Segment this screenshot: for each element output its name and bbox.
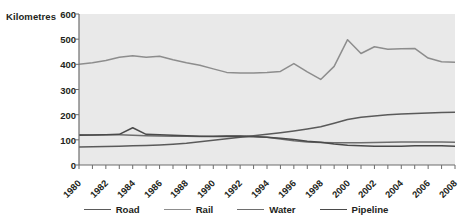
legend-line-swatch (320, 209, 347, 210)
y-axis-title: Kilometres (6, 11, 56, 22)
legend-label: Rail (196, 204, 214, 215)
chart-legend: RoadRailWaterPipeline (0, 199, 472, 219)
x-axis-tick-label: 1986 (142, 178, 164, 200)
legend-line-swatch (84, 209, 111, 210)
x-axis-tick-label: 2008 (437, 178, 459, 200)
series-line-rail (79, 40, 455, 80)
legend-label: Road (116, 204, 140, 215)
legend-label: Pipeline (352, 204, 389, 215)
legend-label: Water (269, 204, 295, 215)
legend-item-rail[interactable]: Rail (164, 204, 214, 215)
y-axis-tick-label: 500 (52, 34, 76, 45)
series-lines (79, 14, 455, 165)
x-axis-tick-label: 1980 (61, 178, 83, 200)
x-axis-tick-label: 2004 (384, 178, 406, 200)
y-axis-tick-label: 100 (52, 134, 76, 145)
x-axis-tick-label: 1984 (115, 178, 137, 200)
y-axis-tick-label: 300 (52, 84, 76, 95)
x-axis-tick-label: 2002 (357, 178, 379, 200)
x-axis-tick-label: 1990 (196, 178, 218, 200)
plot-area (79, 14, 455, 165)
legend-item-water[interactable]: Water (237, 204, 295, 215)
x-axis-tick-label: 1982 (88, 178, 110, 200)
x-axis-tick-label: 1994 (249, 178, 271, 200)
x-axis-tick-label: 2000 (330, 178, 352, 200)
x-axis-tick-label: 2006 (410, 178, 432, 200)
legend-item-pipeline[interactable]: Pipeline (320, 204, 389, 215)
x-axis-tick-label: 1996 (276, 178, 298, 200)
x-axis-tick-label: 1992 (222, 178, 244, 200)
x-axis-tick-label: 1988 (169, 178, 191, 200)
legend-line-swatch (164, 209, 191, 210)
series-line-pipeline (79, 128, 455, 146)
y-axis-tick-label: 200 (52, 109, 76, 120)
y-axis-tick-label: 600 (52, 9, 76, 20)
series-line-water (79, 135, 455, 143)
legend-line-swatch (237, 209, 264, 210)
legend-item-road[interactable]: Road (84, 204, 140, 215)
y-axis-tick-label: 400 (52, 59, 76, 70)
line-chart: Kilometres 6005004003002001000 198019821… (0, 0, 472, 221)
x-axis-tick-label: 1998 (303, 178, 325, 200)
